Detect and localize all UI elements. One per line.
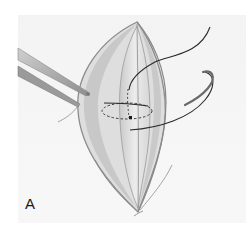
- wound-icon: [58, 22, 172, 216]
- suture-needle-icon: [185, 71, 213, 105]
- suture-illustration: [0, 0, 251, 236]
- figure-label: A: [25, 196, 35, 211]
